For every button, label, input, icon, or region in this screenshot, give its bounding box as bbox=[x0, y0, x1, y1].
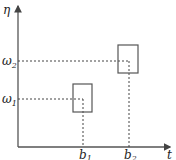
b-1-label: b1 bbox=[79, 148, 92, 160]
omega-1-label: ω1 bbox=[2, 92, 17, 108]
x-axis-label: t bbox=[167, 148, 172, 160]
omega-2-label: ω2 bbox=[2, 54, 17, 70]
y-axis-label: η bbox=[3, 3, 11, 17]
b-2-label: b2 bbox=[124, 148, 137, 160]
atom-box-2 bbox=[118, 45, 138, 73]
time-frequency-diagram: η t ω2 ω1 b1 b2 bbox=[0, 0, 176, 160]
